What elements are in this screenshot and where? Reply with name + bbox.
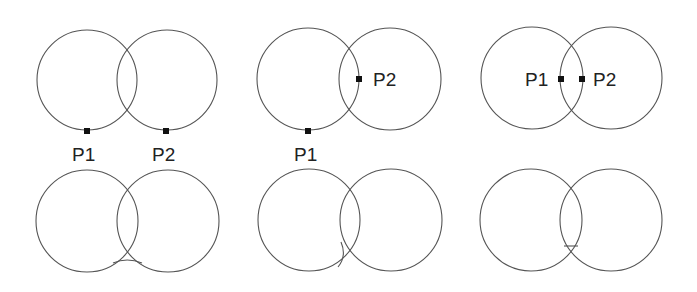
circle-right — [340, 169, 442, 271]
top-panel-2: P1 P2 — [257, 28, 441, 165]
pick-point-p2 — [579, 76, 585, 82]
fillet-arc — [338, 242, 343, 267]
circle-left — [37, 30, 137, 130]
circle-right — [117, 30, 217, 130]
pick-point-p1 — [305, 128, 311, 134]
top-panel-3: P1 P2 — [481, 27, 662, 129]
fillet-diagram: P1 P2 P1 P2 P1 P2 — [0, 0, 697, 292]
bottom-panel-3 — [480, 169, 662, 271]
label-p1: P1 — [525, 69, 548, 90]
label-p2: P2 — [593, 69, 616, 90]
label-p2: P2 — [152, 144, 175, 165]
pick-point-p1 — [558, 76, 564, 82]
pick-point-p2 — [356, 76, 362, 82]
circle-left — [36, 170, 138, 272]
label-p1: P1 — [294, 144, 317, 165]
circle-left — [258, 169, 360, 271]
label-p1: P1 — [72, 144, 95, 165]
bottom-panel-2 — [258, 169, 442, 271]
top-panel-1: P1 P2 — [37, 30, 217, 165]
circle-right — [560, 169, 662, 271]
bottom-panel-1 — [36, 170, 219, 272]
pick-point-p2 — [163, 128, 169, 134]
circle-left — [257, 28, 359, 130]
pick-point-p1 — [84, 128, 90, 134]
circle-right — [117, 170, 219, 272]
circle-left — [480, 169, 582, 271]
label-p2: P2 — [373, 69, 396, 90]
